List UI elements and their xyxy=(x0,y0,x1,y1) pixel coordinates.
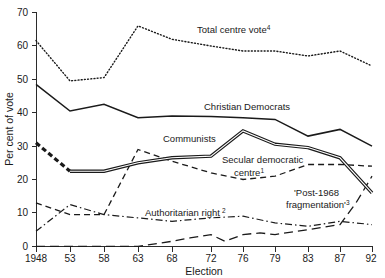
y-label-30: 30 xyxy=(17,141,29,152)
x-label-58: 58 xyxy=(98,253,110,264)
y-label-40: 40 xyxy=(17,107,29,118)
x-axis-title: Election xyxy=(185,265,223,277)
y-axis-title: Per cent of vote xyxy=(3,92,15,166)
series-communists-early-segment xyxy=(36,143,70,171)
y-label-70: 70 xyxy=(17,7,29,18)
x-label-83: 83 xyxy=(302,253,314,264)
x-tick-labels: 1948 53 58 63 68 72 76 79 83 87 92 xyxy=(25,253,377,264)
x-label-53: 53 xyxy=(64,253,76,264)
series-communists xyxy=(70,131,372,193)
label-secular-democratic-centre-line1: Secular democratic xyxy=(222,154,304,165)
label-authoritarian-right-text: Authoritarian right xyxy=(145,207,220,218)
label-post-1968-fragmentation-text: fragmentation' xyxy=(286,199,346,210)
y-label-0: 0 xyxy=(22,241,28,252)
label-total-centre-vote: Total centre vote4 xyxy=(197,24,271,36)
x-tick-group xyxy=(37,247,373,252)
label-communists: Communists xyxy=(163,133,216,144)
y-tick-labels: 70 60 50 40 30 20 10 0 xyxy=(17,7,29,252)
label-christian-democrats: Christian Democrats xyxy=(204,101,290,112)
y-label-60: 60 xyxy=(17,40,29,51)
x-label-68: 68 xyxy=(166,253,178,264)
label-secular-democratic-centre-sup: 1 xyxy=(260,167,264,174)
label-authoritarian-right-sup: 2 xyxy=(222,207,226,214)
y-label-20: 20 xyxy=(17,174,29,185)
label-secular-democratic-centre-line2: centre1 xyxy=(234,167,264,179)
election-vote-line-chart: 70 60 50 40 30 20 10 0 1948 53 xyxy=(0,0,385,278)
x-label-76: 76 xyxy=(237,253,249,264)
label-total-centre-vote-sup: 4 xyxy=(267,24,271,31)
x-label-72: 72 xyxy=(205,253,217,264)
x-label-63: 63 xyxy=(132,253,144,264)
label-total-centre-vote-text: Total centre vote xyxy=(197,24,267,35)
x-label-1948: 1948 xyxy=(25,253,48,264)
label-post-1968-fragmentation-line2: fragmentation'3 xyxy=(286,199,350,211)
label-authoritarian-right: Authoritarian right2 xyxy=(145,207,226,219)
label-post-1968-fragmentation-sup: 3 xyxy=(346,199,350,206)
x-label-87: 87 xyxy=(334,253,346,264)
series-communists-inner-highlight xyxy=(70,131,372,193)
y-tick-group xyxy=(32,13,37,247)
chart-container: 70 60 50 40 30 20 10 0 1948 53 xyxy=(0,0,385,278)
label-secular-democratic-centre-text: centre xyxy=(234,167,260,178)
x-label-79: 79 xyxy=(269,253,281,264)
label-post-1968-fragmentation-line1: 'Post-1968 xyxy=(294,187,339,198)
y-label-50: 50 xyxy=(17,74,29,85)
y-label-10: 10 xyxy=(17,207,29,218)
x-label-92: 92 xyxy=(365,253,377,264)
